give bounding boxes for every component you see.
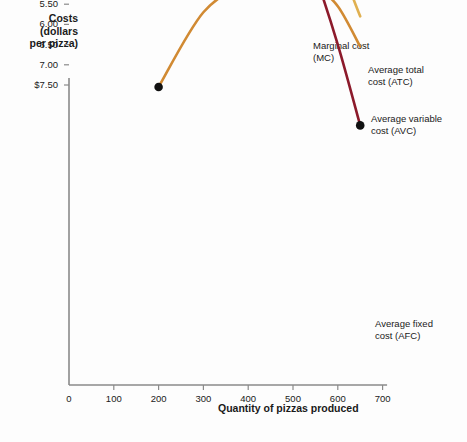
x-tick-label: 700 xyxy=(363,393,403,404)
axes xyxy=(64,0,387,390)
x-tick-label: 500 xyxy=(273,393,313,404)
curves xyxy=(159,0,361,125)
y-tick-label: 6.00 xyxy=(14,18,58,29)
data-point-atc xyxy=(154,83,163,92)
y-tick-label: 6.50 xyxy=(14,39,58,50)
data-markers xyxy=(154,83,364,130)
x-tick-label: 600 xyxy=(318,393,358,404)
x-tick-label: 300 xyxy=(183,393,223,404)
curve-mc xyxy=(159,0,361,125)
data-point-mc xyxy=(356,121,365,130)
x-tick-label: 0 xyxy=(49,393,89,404)
cost-curves-chart: Costs (dollars per pizza) Quantity of pi… xyxy=(0,0,467,442)
x-tick-label: 200 xyxy=(139,393,179,404)
x-tick-label: 100 xyxy=(94,393,134,404)
plot-area xyxy=(0,0,467,442)
curve-atc xyxy=(159,0,361,87)
y-tick-label: $7.50 xyxy=(14,79,58,90)
y-tick-label: 7.00 xyxy=(14,59,58,70)
x-tick-label: 400 xyxy=(228,393,268,404)
y-tick-label: 5.50 xyxy=(14,0,58,9)
curve-avc xyxy=(159,0,361,16)
